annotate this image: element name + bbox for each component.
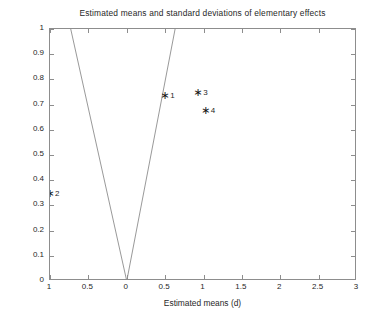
y-tick-mark xyxy=(351,54,355,55)
x-tick-mark xyxy=(127,29,128,33)
y-tick-label: 0.4 xyxy=(33,174,44,184)
x-tick-label: 1.5 xyxy=(235,282,246,292)
chart-title: Estimated means and standard deviations … xyxy=(49,8,356,19)
x-tick-mark xyxy=(280,29,281,33)
x-tick-label: 0.5 xyxy=(159,282,170,292)
data-point-label: 3 xyxy=(203,88,207,97)
y-tick-label: 0.1 xyxy=(33,250,44,260)
y-tick-mark xyxy=(351,180,355,181)
x-tick-label: 3 xyxy=(354,282,358,292)
x-tick-mark xyxy=(165,275,166,279)
y-tick-label: 0.6 xyxy=(33,124,44,134)
y-tick-mark xyxy=(351,155,355,156)
data-point-label: 4 xyxy=(211,105,215,114)
x-tick-mark xyxy=(88,29,89,33)
x-axis-title: Estimated means (d) xyxy=(49,298,356,309)
y-tick-mark xyxy=(50,29,54,30)
plot-area: ∗1∗2∗3∗4 xyxy=(49,28,356,280)
x-tick-label: 2.5 xyxy=(312,282,323,292)
y-tick-mark xyxy=(50,205,54,206)
x-tick-label: 1 xyxy=(200,282,204,292)
x-tick-mark xyxy=(88,275,89,279)
x-tick-mark xyxy=(242,275,243,279)
y-tick-mark xyxy=(351,29,355,30)
y-tick-mark xyxy=(351,130,355,131)
y-tick-label: 0.2 xyxy=(33,225,44,235)
x-tick-mark xyxy=(204,275,205,279)
y-tick-mark xyxy=(50,79,54,80)
right-wedge-line xyxy=(127,29,175,280)
y-tick-label: 0.3 xyxy=(33,199,44,209)
y-tick-label: 1 xyxy=(40,23,44,33)
x-tick-label: 1 xyxy=(47,282,51,292)
y-tick-mark xyxy=(50,105,54,106)
y-tick-mark xyxy=(351,105,355,106)
data-point-label: 2 xyxy=(55,188,59,197)
y-tick-label: 0 xyxy=(40,275,44,285)
y-tick-mark xyxy=(351,256,355,257)
reference-lines-group xyxy=(71,29,175,280)
y-tick-label: 0.9 xyxy=(33,48,44,58)
x-tick-label: 0 xyxy=(124,282,128,292)
data-point-label: 1 xyxy=(170,90,174,99)
figure-canvas: Estimated means and standard deviations … xyxy=(0,0,387,320)
x-tick-mark xyxy=(165,29,166,33)
y-tick-mark xyxy=(50,54,54,55)
y-tick-mark xyxy=(50,155,54,156)
y-tick-label: 0.5 xyxy=(33,149,44,159)
x-tick-mark xyxy=(204,29,205,33)
y-tick-mark xyxy=(50,256,54,257)
x-tick-label: 2 xyxy=(277,282,281,292)
y-tick-mark xyxy=(50,180,54,181)
x-tick-label: 0.5 xyxy=(82,282,93,292)
plot-svg xyxy=(50,29,356,280)
x-tick-mark xyxy=(319,29,320,33)
x-tick-mark xyxy=(242,29,243,33)
y-tick-mark xyxy=(351,205,355,206)
y-tick-mark xyxy=(50,231,54,232)
y-tick-mark xyxy=(351,231,355,232)
y-tick-label: 0.7 xyxy=(33,99,44,109)
x-tick-mark xyxy=(127,275,128,279)
left-wedge-line xyxy=(71,29,127,280)
x-tick-mark xyxy=(280,275,281,279)
y-tick-mark xyxy=(50,130,54,131)
y-tick-label: 0.8 xyxy=(33,73,44,83)
y-tick-mark xyxy=(351,79,355,80)
x-tick-mark xyxy=(50,275,51,279)
x-tick-mark xyxy=(319,275,320,279)
